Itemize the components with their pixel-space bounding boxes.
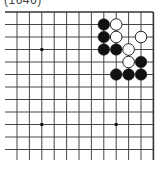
white-stone <box>123 44 135 56</box>
black-stone <box>98 31 110 43</box>
star-point <box>40 48 44 52</box>
black-stone <box>110 69 122 81</box>
go-board <box>0 0 164 171</box>
black-stone <box>123 69 135 81</box>
black-stone <box>135 69 147 81</box>
white-stone <box>135 31 147 43</box>
white-stone <box>110 19 122 31</box>
star-point <box>114 123 118 127</box>
black-stone <box>110 44 122 56</box>
star-point <box>40 123 44 127</box>
black-stone <box>98 44 110 56</box>
black-stone <box>135 56 147 68</box>
white-stone <box>123 56 135 68</box>
black-stone <box>98 19 110 31</box>
white-stone <box>110 31 122 43</box>
